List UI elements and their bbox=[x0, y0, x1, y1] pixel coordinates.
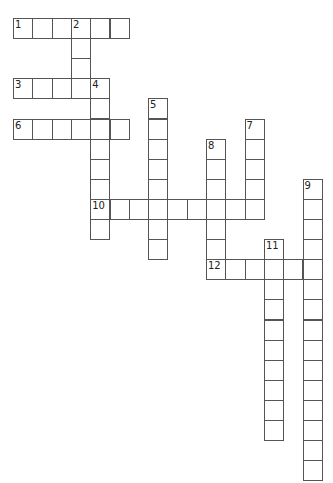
crossword-cell[interactable] bbox=[303, 259, 323, 280]
crossword-cell[interactable] bbox=[148, 199, 168, 220]
crossword-cell[interactable] bbox=[264, 360, 284, 381]
crossword-grid: 123410567812911 bbox=[0, 0, 333, 483]
crossword-cell[interactable] bbox=[148, 179, 168, 200]
clue-number: 5 bbox=[150, 99, 156, 110]
crossword-cell[interactable]: 10 bbox=[90, 199, 110, 220]
crossword-cell[interactable] bbox=[52, 78, 72, 99]
clue-number: 11 bbox=[266, 240, 279, 251]
crossword-cell[interactable] bbox=[303, 219, 323, 240]
crossword-cell[interactable] bbox=[71, 38, 91, 59]
crossword-cell[interactable] bbox=[303, 420, 323, 441]
crossword-cell[interactable] bbox=[129, 199, 149, 220]
clue-number: 2 bbox=[73, 19, 79, 30]
clue-number: 8 bbox=[208, 140, 214, 151]
crossword-cell[interactable] bbox=[148, 119, 168, 140]
crossword-cell[interactable] bbox=[264, 400, 284, 421]
crossword-cell[interactable] bbox=[303, 400, 323, 421]
crossword-cell[interactable] bbox=[303, 380, 323, 401]
crossword-cell[interactable] bbox=[90, 219, 110, 240]
crossword-cell[interactable]: 3 bbox=[13, 78, 33, 99]
crossword-cell[interactable] bbox=[167, 199, 187, 220]
crossword-cell[interactable] bbox=[148, 219, 168, 240]
crossword-cell[interactable]: 6 bbox=[13, 119, 33, 140]
crossword-cell[interactable] bbox=[148, 139, 168, 160]
clue-number: 10 bbox=[92, 200, 105, 211]
crossword-cell[interactable] bbox=[283, 259, 303, 280]
crossword-cell[interactable] bbox=[71, 78, 91, 99]
clue-number: 1 bbox=[15, 19, 21, 30]
crossword-cell[interactable] bbox=[245, 139, 265, 160]
crossword-cell[interactable] bbox=[206, 159, 226, 180]
crossword-cell[interactable]: 1 bbox=[13, 18, 33, 39]
crossword-cell[interactable]: 8 bbox=[206, 139, 226, 160]
crossword-cell[interactable] bbox=[303, 279, 323, 300]
crossword-cell[interactable] bbox=[187, 199, 207, 220]
crossword-cell[interactable] bbox=[90, 179, 110, 200]
crossword-cell[interactable] bbox=[110, 199, 130, 220]
crossword-cell[interactable] bbox=[303, 320, 323, 341]
crossword-cell[interactable] bbox=[110, 119, 130, 140]
crossword-cell[interactable] bbox=[303, 340, 323, 361]
crossword-cell[interactable] bbox=[264, 340, 284, 361]
crossword-cell[interactable] bbox=[90, 159, 110, 180]
crossword-cell[interactable] bbox=[90, 98, 110, 119]
crossword-cell[interactable] bbox=[303, 360, 323, 381]
crossword-cell[interactable] bbox=[90, 18, 110, 39]
clue-number: 6 bbox=[15, 120, 21, 131]
crossword-cell[interactable] bbox=[245, 159, 265, 180]
crossword-cell[interactable] bbox=[148, 239, 168, 260]
crossword-cell[interactable] bbox=[264, 299, 284, 320]
crossword-cell[interactable]: 2 bbox=[71, 18, 91, 39]
crossword-cell[interactable]: 7 bbox=[245, 119, 265, 140]
crossword-cell[interactable] bbox=[225, 199, 245, 220]
clue-number: 4 bbox=[92, 79, 98, 90]
crossword-cell[interactable] bbox=[264, 259, 284, 280]
crossword-cell[interactable] bbox=[206, 199, 226, 220]
crossword-cell[interactable] bbox=[264, 380, 284, 401]
crossword-cell[interactable] bbox=[245, 179, 265, 200]
clue-number: 12 bbox=[208, 260, 221, 271]
crossword-cell[interactable] bbox=[303, 239, 323, 260]
crossword-cell[interactable]: 9 bbox=[303, 179, 323, 200]
crossword-cell[interactable] bbox=[32, 78, 52, 99]
crossword-cell[interactable] bbox=[245, 199, 265, 220]
crossword-cell[interactable]: 5 bbox=[148, 98, 168, 119]
crossword-cell[interactable] bbox=[206, 179, 226, 200]
clue-number: 7 bbox=[247, 120, 253, 131]
crossword-cell[interactable] bbox=[52, 119, 72, 140]
crossword-cell[interactable] bbox=[303, 440, 323, 461]
crossword-cell[interactable] bbox=[206, 219, 226, 240]
crossword-cell[interactable] bbox=[264, 420, 284, 441]
crossword-cell[interactable] bbox=[225, 259, 245, 280]
crossword-cell[interactable] bbox=[264, 320, 284, 341]
crossword-cell[interactable] bbox=[52, 18, 72, 39]
crossword-cell[interactable] bbox=[71, 119, 91, 140]
crossword-cell[interactable] bbox=[71, 58, 91, 79]
crossword-cell[interactable] bbox=[32, 119, 52, 140]
clue-number: 3 bbox=[15, 79, 21, 90]
crossword-cell[interactable] bbox=[90, 139, 110, 160]
crossword-cell[interactable] bbox=[206, 239, 226, 260]
crossword-cell[interactable] bbox=[303, 199, 323, 220]
crossword-cell[interactable] bbox=[90, 119, 110, 140]
crossword-cell[interactable] bbox=[303, 460, 323, 481]
crossword-cell[interactable] bbox=[32, 18, 52, 39]
crossword-cell[interactable] bbox=[110, 18, 130, 39]
crossword-cell[interactable]: 12 bbox=[206, 259, 226, 280]
clue-number: 9 bbox=[305, 180, 311, 191]
crossword-cell[interactable]: 11 bbox=[264, 239, 284, 260]
crossword-cell[interactable] bbox=[264, 279, 284, 300]
crossword-cell[interactable] bbox=[303, 299, 323, 320]
crossword-cell[interactable] bbox=[148, 159, 168, 180]
crossword-cell[interactable]: 4 bbox=[90, 78, 110, 99]
crossword-cell[interactable] bbox=[245, 259, 265, 280]
